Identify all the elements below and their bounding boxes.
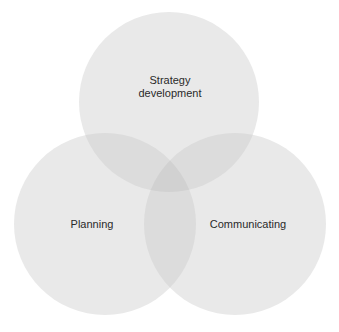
label-planning: Planning [71,218,114,230]
label-communicating: Communicating [210,218,286,230]
label-strategy-line2: development [139,87,202,99]
venn-diagram: Strategy development Planning Communicat… [0,0,339,332]
label-strategy-line1: Strategy [150,74,191,86]
